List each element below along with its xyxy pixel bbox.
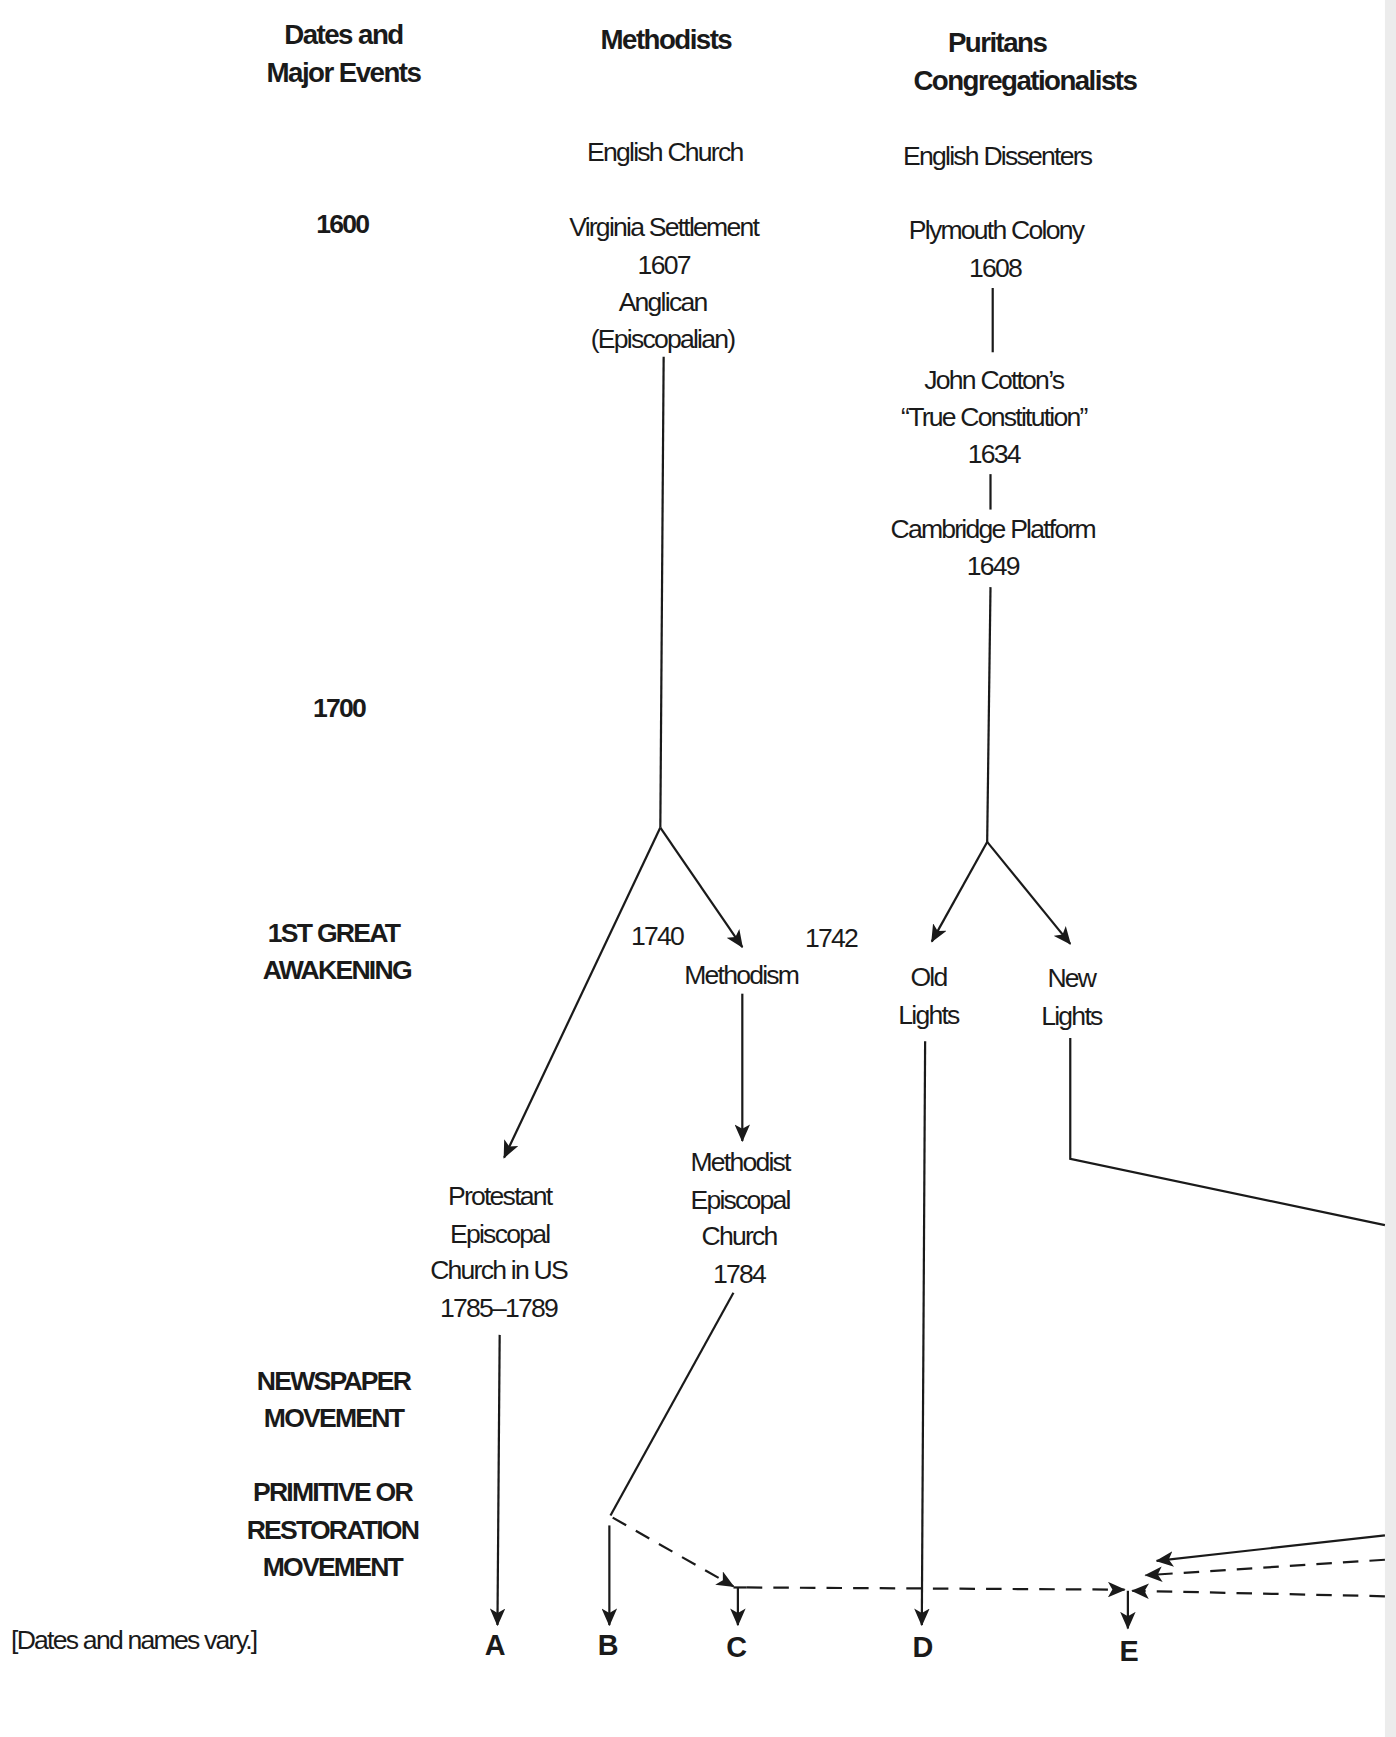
event-great-awakening: 1ST GREAT AWAKENING: [263, 918, 412, 986]
event-restoration-line2: RESTORATION: [247, 1515, 419, 1545]
node-virginia-settlement: Virginia Settlement 1607 Anglican (Episc…: [569, 212, 760, 354]
node-new-lights-line2: Lights: [1041, 1001, 1103, 1031]
endpoint-e: E: [1119, 1635, 1138, 1667]
timeline-1600: 1600: [316, 209, 369, 239]
event-restoration-line1: PRIMITIVE OR: [253, 1477, 413, 1507]
page-edge-shadow: [1385, 0, 1396, 1737]
event-newspaper-line1: NEWSPAPER: [257, 1366, 412, 1396]
endpoint-b: B: [598, 1629, 619, 1661]
label-1740: 1740: [631, 921, 684, 951]
node-cotton-line1: John Cotton’s: [924, 365, 1064, 395]
node-cambridge-line1: Cambridge Platform: [890, 514, 1095, 544]
endpoint-a: A: [485, 1629, 506, 1661]
event-newspaper-line2: MOVEMENT: [264, 1403, 405, 1433]
node-new-lights-line1: New: [1047, 963, 1097, 993]
connector-old-lights-to-d: [922, 1041, 925, 1625]
node-pe-line1: Protestant: [448, 1181, 554, 1211]
event-newspaper-movement: NEWSPAPER MOVEMENT: [257, 1366, 412, 1433]
node-virginia-year: 1607: [638, 250, 691, 280]
node-plymouth-colony: Plymouth Colony 1608: [909, 215, 1086, 283]
header-dates: Dates and Major Events: [267, 19, 422, 88]
footnote: [Dates and names vary.]: [11, 1625, 257, 1655]
header-dates-line1: Dates and: [284, 19, 403, 50]
connector-dashed-c-to-e: [747, 1587, 1125, 1589]
header-puritans-line1: Puritans: [948, 27, 1048, 58]
node-methodism: Methodism: [684, 960, 799, 990]
connector-offpage-dashed2-to-e: [1132, 1591, 1385, 1597]
node-cotton-year: 1634: [968, 439, 1021, 469]
connector-cambridge-trunk: [987, 587, 990, 842]
node-me-line3: Church: [701, 1221, 777, 1251]
node-virginia-line4: (Episcopalian): [591, 324, 736, 354]
node-virginia-line3: Anglican: [619, 287, 708, 317]
node-protestant-episcopal: Protestant Episcopal Church in US 1785–1…: [430, 1181, 568, 1323]
label-1742: 1742: [805, 923, 858, 953]
node-me-line2: Episcopal: [690, 1185, 790, 1215]
node-virginia-line1: Virginia Settlement: [569, 212, 760, 242]
node-cambridge-year: 1649: [967, 551, 1020, 581]
event-great-awakening-line2: AWAKENING: [263, 955, 412, 985]
node-new-lights: New Lights: [1041, 963, 1103, 1031]
endpoint-d: D: [913, 1631, 934, 1663]
connector-to-old-lights: [932, 842, 987, 942]
event-restoration-line3: MOVEMENT: [263, 1552, 404, 1582]
connector-new-lights-offpage: [1070, 1038, 1385, 1225]
node-pe-line3: Church in US: [430, 1255, 568, 1285]
node-john-cotton: John Cotton’s “True Constitution” 1634: [901, 365, 1087, 469]
node-pe-years: 1785–1789: [440, 1293, 558, 1323]
header-puritans: Puritans Congregationalists: [913, 27, 1137, 96]
header-methodists: Methodists: [601, 24, 733, 55]
node-plymouth-line1: Plymouth Colony: [909, 215, 1086, 245]
connector-offpage-solid-to-e: [1157, 1535, 1385, 1560]
node-old-lights-line2: Lights: [898, 1000, 960, 1030]
connector-pe-to-a: [497, 1335, 499, 1625]
connector-offpage-dashed1-to-e: [1146, 1560, 1385, 1576]
node-cambridge-platform: Cambridge Platform 1649: [890, 514, 1095, 581]
timeline-1700: 1700: [313, 693, 366, 723]
node-cotton-line2: “True Constitution”: [901, 402, 1087, 432]
connector-to-protestant-episcopal: [504, 828, 660, 1158]
node-old-lights: Old Lights: [898, 962, 960, 1030]
node-methodist-episcopal: Methodist Episcopal Church 1784: [690, 1147, 792, 1289]
node-me-year: 1784: [713, 1259, 766, 1289]
event-restoration-movement: PRIMITIVE OR RESTORATION MOVEMENT: [247, 1477, 419, 1582]
event-great-awakening-line1: 1ST GREAT: [268, 918, 401, 948]
endpoint-c: C: [726, 1631, 747, 1663]
node-me-line1: Methodist: [690, 1147, 792, 1177]
node-plymouth-year: 1608: [969, 253, 1022, 283]
header-puritans-line2: Congregationalists: [913, 65, 1137, 96]
node-english-church: English Church: [587, 137, 743, 167]
connector-to-new-lights: [987, 842, 1070, 944]
node-pe-line2: Episcopal: [450, 1219, 550, 1249]
node-english-dissenters: English Dissenters: [903, 141, 1093, 171]
connector-me-to-b-split: [610, 1293, 733, 1516]
connector-anglican-trunk: [660, 357, 663, 828]
header-dates-line2: Major Events: [267, 57, 422, 88]
connector-dashed-to-c: [613, 1518, 734, 1587]
denomination-lineage-diagram: Dates and Major Events Methodists Purita…: [0, 0, 1396, 1737]
node-old-lights-line1: Old: [910, 962, 947, 992]
